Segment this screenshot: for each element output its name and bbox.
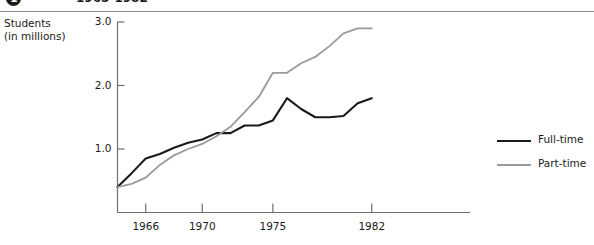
legend-label-part-time: Part-time (538, 157, 586, 169)
legend-swatch-full-time (497, 140, 531, 142)
chart-axes (118, 22, 471, 213)
x-axis-tick-label: 1982 (342, 220, 402, 232)
series-line-part-time (118, 28, 372, 187)
x-axis-ticks (146, 204, 372, 213)
legend-label-full-time: Full-time (538, 133, 583, 145)
figure-container: 1 1965-1982 Students (in millions) 1.02.… (0, 0, 594, 245)
y-axis-tick-label: 2.0 (72, 79, 112, 91)
line-chart-plot (0, 0, 594, 245)
y-axis-tick-label: 3.0 (72, 15, 112, 27)
x-axis-tick-label: 1970 (172, 220, 232, 232)
chart-series-group (118, 28, 372, 187)
y-axis-tick-label: 1.0 (72, 142, 112, 154)
x-axis-tick-label: 1975 (243, 220, 303, 232)
y-axis-ticks (118, 22, 125, 149)
legend-swatch-part-time (497, 164, 531, 166)
x-axis-tick-label: 1966 (116, 220, 176, 232)
